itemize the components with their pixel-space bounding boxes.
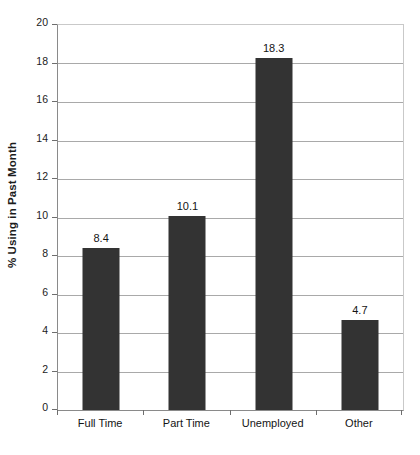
bar-group: 18.3 [231, 25, 317, 410]
y-axis-title-text: % Using in Past Month [6, 141, 18, 267]
x-axis-category-label: Part Time [163, 417, 210, 429]
bar-group: 10.1 [144, 25, 230, 410]
x-axis-category-label: Unemployed [242, 417, 304, 429]
x-axis-tick-mark [316, 410, 317, 415]
x-axis-category-label: Other [345, 417, 373, 429]
bar-group: 8.4 [58, 25, 144, 410]
y-axis-tick-label: 20 [36, 16, 48, 28]
x-axis-tick-mark [401, 410, 402, 415]
bar-value-label: 4.7 [352, 304, 367, 316]
y-axis-tick-label: 2 [42, 363, 48, 375]
bar [169, 216, 206, 410]
y-axis-tick-label: 10 [36, 209, 48, 221]
bar [255, 58, 292, 410]
y-axis-tick-label: 16 [36, 93, 48, 105]
x-axis-tick-mark [230, 410, 231, 415]
y-axis-tick-label: 8 [42, 247, 48, 259]
x-axis-tick-mark [57, 410, 58, 415]
x-axis-tick-mark [143, 410, 144, 415]
y-axis-tick-label: 6 [42, 286, 48, 298]
bar-value-label: 8.4 [93, 232, 108, 244]
bar-chart: % Using in Past Month 02468101214161820 … [0, 0, 420, 455]
x-axis-category-label: Full Time [78, 417, 123, 429]
y-axis-tick-label: 4 [42, 324, 48, 336]
x-axis-labels: Full TimePart TimeUnemployedOther [57, 417, 402, 437]
y-axis-tick-label: 14 [36, 132, 48, 144]
plot-area: 8.410.118.34.7 [57, 24, 404, 411]
bar-group: 4.7 [317, 25, 403, 410]
x-axis-ticks [57, 410, 402, 416]
bar [83, 248, 120, 410]
bar [341, 320, 378, 410]
bar-value-label: 10.1 [177, 200, 198, 212]
y-axis-tick-label: 12 [36, 170, 48, 182]
y-axis-ticks: 02468101214161820 [0, 0, 57, 455]
y-axis-tick-label: 18 [36, 55, 48, 67]
bar-value-label: 18.3 [263, 42, 284, 54]
y-axis-tick-label: 0 [42, 401, 48, 413]
y-axis-title: % Using in Past Month [0, 0, 24, 409]
bars-layer: 8.410.118.34.7 [58, 25, 403, 410]
